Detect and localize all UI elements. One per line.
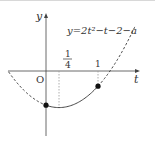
t-axis-label: t [134, 73, 139, 86]
parabola-graph: y t O y=2t²−t−2−a 1 4 1 [0, 1, 155, 146]
curve-solid [46, 86, 98, 107]
origin-label: O [36, 74, 44, 85]
diagram-frame: y t O y=2t²−t−2−a 1 4 1 [0, 0, 155, 146]
point-t0 [43, 103, 48, 108]
tick-quarter-denominator: 4 [65, 60, 71, 70]
tick-one-label: 1 [95, 59, 101, 69]
tick-quarter-numerator: 1 [65, 49, 71, 59]
point-t1 [95, 84, 100, 89]
y-axis-arrow [44, 13, 48, 18]
equation-label: y=2t²−t−2−a [66, 25, 137, 36]
y-axis-label: y [35, 10, 43, 23]
